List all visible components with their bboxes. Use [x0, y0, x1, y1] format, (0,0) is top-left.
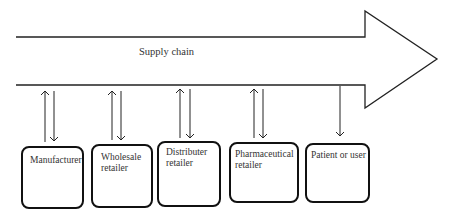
wholesale-flow-arrows-icon: [112, 91, 121, 140]
node-pharmaceutical-retailer: Pharmaceutical retailer: [229, 142, 299, 203]
node-patient-or-user: Patient or user: [305, 143, 370, 203]
supply-chain-arrow-icon: [16, 11, 437, 108]
node-label: Wholesale retailer: [101, 152, 141, 174]
node-label: Pharmaceutical retailer: [235, 149, 294, 171]
node-label: Patient or user: [311, 150, 366, 161]
distributer-flow-arrows-icon: [180, 89, 190, 138]
node-distributer-retailer: Distributer retailer: [157, 141, 221, 207]
manufacturer-flow-arrows-icon: [45, 91, 54, 142]
node-manufacturer: Manufacturer: [21, 146, 84, 209]
node-wholesale-retailer: Wholesale retailer: [91, 144, 153, 208]
node-label: Distributer retailer: [166, 147, 207, 169]
node-label: Manufacturer: [30, 155, 82, 166]
supply-chain-label: Supply chain: [139, 46, 194, 57]
pharma-flow-arrows-icon: [254, 89, 263, 138]
